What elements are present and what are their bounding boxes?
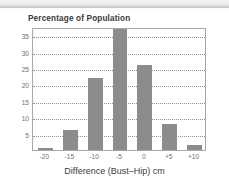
x-axis-tick-label: +10 (188, 153, 199, 160)
x-axis-tick-label: -5 (116, 153, 122, 160)
bar (187, 145, 202, 150)
y-axis-tick-label: 20 (22, 82, 29, 89)
bar-series (33, 29, 205, 150)
bar (38, 148, 53, 150)
y-axis-tick-label: 25 (22, 66, 29, 73)
y-axis-tick-label: 5 (25, 131, 29, 138)
x-axis-tick-label: -15 (65, 153, 75, 160)
x-axis-tick-labels: -20-15-10-50+5+10 (32, 153, 206, 165)
y-axis-tick-label: 10 (22, 115, 29, 122)
scan-artifact-strip-lower (0, 8, 229, 11)
bar (137, 65, 152, 150)
chart-screenshot: Percentage of Population 5101520253035 -… (0, 0, 229, 187)
bar (63, 130, 78, 150)
bar (162, 124, 177, 150)
scan-artifact-strip (0, 0, 229, 8)
x-axis-title: Difference (Bust–Hip) cm (0, 166, 229, 176)
y-axis-tick-label: 15 (22, 98, 29, 105)
y-axis-tick-label: 30 (22, 49, 29, 56)
y-axis-tick-labels: 5101520253035 (0, 28, 29, 151)
bar (88, 78, 103, 150)
y-axis-tick-label: 35 (22, 33, 29, 40)
chart-title: Percentage of Population (28, 14, 130, 23)
x-axis-tick-label: -10 (89, 153, 99, 160)
bar (113, 29, 128, 150)
x-axis-tick-label: 0 (142, 153, 146, 160)
x-axis-tick-label: -20 (40, 153, 50, 160)
x-axis-tick-label: +5 (165, 153, 173, 160)
plot-area (32, 28, 206, 151)
